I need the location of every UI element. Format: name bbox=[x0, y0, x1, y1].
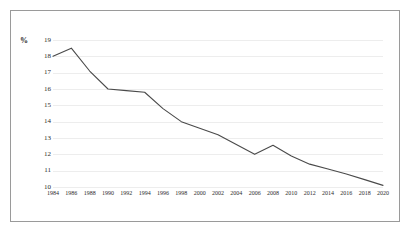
plot-area bbox=[53, 40, 383, 187]
y-axis-tick-label: 13 bbox=[37, 135, 51, 142]
x-axis-tick-labels: 1984198619881990199219941996199820002002… bbox=[53, 190, 383, 200]
y-axis-tick-label: 15 bbox=[37, 102, 51, 109]
x-axis-tick-label: 2020 bbox=[371, 190, 395, 197]
y-axis-tick-label: 16 bbox=[37, 86, 51, 93]
y-axis-tick-label: 11 bbox=[37, 167, 51, 174]
y-axis-tick-label: 18 bbox=[37, 53, 51, 60]
y-axis-tick-label: 17 bbox=[37, 69, 51, 76]
line-series-path bbox=[53, 48, 383, 185]
gridline bbox=[53, 187, 383, 188]
line-series-svg bbox=[53, 40, 383, 187]
y-axis-tick-label: 12 bbox=[37, 151, 51, 158]
y-axis-tick-label: 14 bbox=[37, 118, 51, 125]
y-axis-tick-label: 19 bbox=[37, 37, 51, 44]
figure-root: % 19181716151413121110 19841986198819901… bbox=[0, 0, 417, 236]
y-axis-unit-label: % bbox=[20, 36, 28, 46]
y-axis-tick-labels: 19181716151413121110 bbox=[35, 40, 51, 187]
